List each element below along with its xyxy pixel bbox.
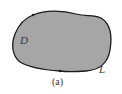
figure-caption: (a) (52, 76, 63, 87)
region-label: D (20, 34, 28, 46)
boundary-label: L (99, 63, 105, 75)
boundary-point-bottom (59, 70, 61, 72)
boundary-point-top (32, 14, 34, 16)
